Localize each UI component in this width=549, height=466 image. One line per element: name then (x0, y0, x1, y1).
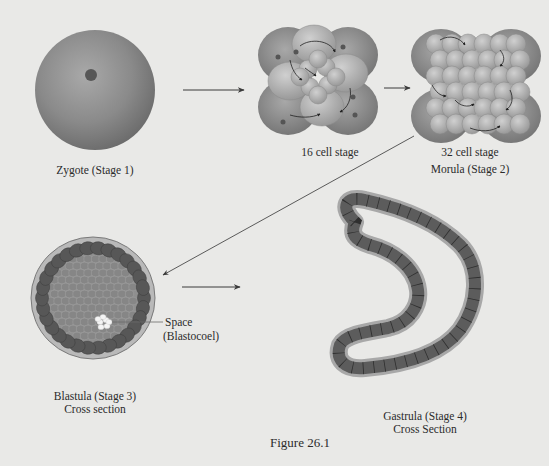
inner-cell (84, 255, 92, 263)
inner-cell (91, 297, 99, 305)
inner-cell (61, 283, 69, 291)
inner-cell (84, 297, 92, 305)
blastula-label: Blastula (Stage 3) (40, 390, 150, 403)
inner-cell (95, 276, 103, 284)
zygote (35, 30, 155, 150)
inner-cell (114, 325, 122, 333)
inner-cell (69, 283, 77, 291)
inner-cell (88, 290, 96, 298)
inner-cell (84, 311, 92, 319)
inner-cell (84, 269, 92, 277)
inner-cell (73, 262, 81, 270)
inner-cell (69, 297, 77, 305)
cell-nucleus (281, 120, 286, 125)
inner-cell (106, 283, 114, 291)
inner-cell (73, 304, 81, 312)
inner-cell (80, 290, 88, 298)
blastomere-small (327, 68, 345, 86)
inner-cell (76, 311, 84, 319)
inner-cell (54, 297, 62, 305)
inner-cell (73, 318, 81, 326)
cell-nucleus (276, 55, 281, 60)
inner-cell (91, 269, 99, 277)
inner-cell (110, 276, 118, 284)
inner-cell (106, 297, 114, 305)
blastula-sublabel: Cross section (40, 403, 150, 416)
inner-cell (80, 262, 88, 270)
inner-cell (121, 283, 129, 291)
inner-cell (125, 304, 133, 312)
cell-nucleus (294, 50, 299, 55)
inner-cell (65, 304, 73, 312)
inner-cell (80, 332, 88, 340)
inner-cell (54, 311, 62, 319)
inner-cell (110, 290, 118, 298)
zygote-cell (35, 30, 155, 150)
inner-cell (121, 311, 129, 319)
inner-cell (76, 283, 84, 291)
inner-cell (80, 304, 88, 312)
inner-cell (95, 304, 103, 312)
inner-cell (76, 297, 84, 305)
inner-cell (73, 290, 81, 298)
inner-cell (95, 290, 103, 298)
cell-nucleus (351, 95, 356, 100)
inner-cell (69, 269, 77, 277)
inner-cell (106, 269, 114, 277)
inner-cell (99, 283, 107, 291)
inner-cell (118, 276, 126, 284)
inner-cell (61, 269, 69, 277)
inner-cell (114, 283, 122, 291)
inner-cell (114, 311, 122, 319)
inner-cell (65, 318, 73, 326)
inner-cell (80, 318, 88, 326)
inner-cell (61, 311, 69, 319)
inner-cell (129, 283, 137, 291)
inner-cell (58, 304, 66, 312)
inner-cell (103, 304, 111, 312)
blastocoel-space (106, 319, 112, 324)
blastocoel-label-line2: (Blastocoel) (163, 330, 219, 343)
blastomere-small (309, 86, 327, 104)
gastrula-label: Gastrula (Stage 4) (365, 410, 485, 423)
figure-caption: Figure 26.1 (250, 436, 350, 449)
blastocoel-label-line1: Space (165, 316, 192, 329)
16-cell-embryo (258, 25, 378, 135)
blastocoel-space (95, 316, 101, 321)
inner-cell (65, 276, 73, 284)
inner-cell (58, 276, 66, 284)
inner-cell (125, 290, 133, 298)
inner-cell (110, 262, 118, 270)
inner-cell (88, 276, 96, 284)
inner-cell (114, 297, 122, 305)
inner-cell (50, 290, 58, 298)
inner-cell (76, 325, 84, 333)
inner-cell (69, 325, 77, 333)
cell-nucleus (353, 113, 358, 118)
inner-cell (95, 332, 103, 340)
inner-cell (61, 297, 69, 305)
16-cell-stage-label: 16 cell stage (290, 146, 370, 159)
inner-cell (69, 311, 77, 319)
gastrula-cross-section (339, 199, 475, 368)
inner-cell (80, 276, 88, 284)
inner-cell (65, 290, 73, 298)
morula-label: Morula (Stage 2) (418, 163, 522, 176)
inner-cell (88, 262, 96, 270)
inner-cell (65, 262, 73, 270)
32-cell-embryo (411, 29, 541, 143)
blastomere-small (510, 114, 530, 134)
blastomere-small (309, 50, 327, 68)
inner-cell (121, 297, 129, 305)
inner-cell (114, 269, 122, 277)
inner-cell (95, 262, 103, 270)
zygote-nucleus (85, 69, 97, 81)
zygote-label: Zygote (Stage 1) (40, 164, 150, 177)
inner-cell (88, 304, 96, 312)
inner-cell (58, 290, 66, 298)
inner-cell (73, 276, 81, 284)
inner-cell (129, 297, 137, 305)
inner-cell (103, 262, 111, 270)
inner-cell (58, 318, 66, 326)
gastrula-sublabel: Cross Section (365, 423, 485, 436)
